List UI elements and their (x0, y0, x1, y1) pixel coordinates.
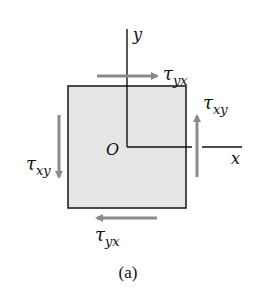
y-axis-label: y (132, 25, 143, 44)
stress-element-diagram: y x O τyx τxy τxy τyx (a) (0, 0, 269, 301)
tau-xy-left-label: τxy (26, 153, 51, 178)
tau-xy-right-label: τxy (203, 92, 228, 117)
origin-label: O (106, 140, 119, 159)
figure-caption: (a) (119, 263, 138, 282)
x-axis-label: x (231, 149, 240, 168)
tau-yx-top-label: τyx (163, 63, 188, 88)
tau-yx-bottom-label: τyx (95, 224, 120, 249)
